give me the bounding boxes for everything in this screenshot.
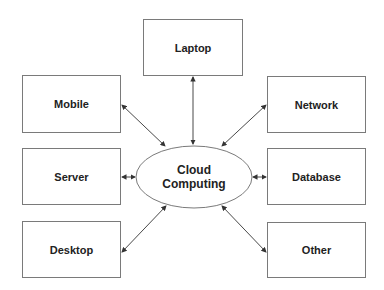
node-other[interactable]: Other <box>267 222 366 278</box>
node-database[interactable]: Database <box>267 148 366 205</box>
node-laptop[interactable]: Laptop <box>143 19 243 76</box>
node-label: Other <box>302 244 331 256</box>
node-server[interactable]: Server <box>22 148 121 205</box>
hub-cloud-computing[interactable]: Cloud Computing <box>136 146 252 208</box>
node-label: Server <box>54 171 88 183</box>
node-desktop[interactable]: Desktop <box>22 221 121 278</box>
node-label: Network <box>295 99 338 111</box>
node-label: Mobile <box>54 98 89 110</box>
hub-label-line2: Computing <box>162 177 225 191</box>
hub-label-line1: Cloud <box>177 163 211 177</box>
node-label: Desktop <box>50 244 93 256</box>
node-network[interactable]: Network <box>267 76 366 133</box>
arrow-desktop-to-hub <box>122 206 166 252</box>
node-label: Database <box>292 171 341 183</box>
node-mobile[interactable]: Mobile <box>22 75 121 133</box>
arrow-mobile-to-hub <box>122 105 165 146</box>
arrow-other-to-hub <box>222 206 266 252</box>
node-label: Laptop <box>175 42 212 54</box>
arrow-network-to-hub <box>222 105 266 146</box>
